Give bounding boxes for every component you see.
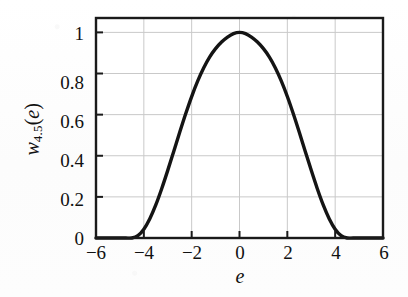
x-tick-label-minus2: −2 [175,243,209,262]
y-tick-label-0.4: 0.4 [46,151,84,170]
x-tick-label-minus6: −6 [79,243,113,262]
x-axis-title: e [200,266,280,286]
x-tick-label-6: 6 [367,243,401,262]
y-tick-label-0.2: 0.2 [46,190,84,209]
y-axis-title: w4.5(e) [22,69,45,189]
x-tick-label-minus4: −4 [127,243,161,262]
y-tick-label-0.8: 0.8 [46,73,84,92]
y-tick-label-1: 1 [46,24,84,43]
y-axis-argument-variable: e [21,110,43,119]
y-tick-label-0.6: 0.6 [46,112,84,131]
figure-container: 0 0.2 0.4 0.6 0.8 1 −6 −4 −2 0 2 4 6 e w… [0,0,408,297]
y-axis-argument: (e) [21,103,43,125]
y-axis-subscript: 4.5 [30,125,45,142]
x-tick-label-4: 4 [319,243,353,262]
y-axis-symbol: w [21,142,43,155]
x-tick-label-2: 2 [271,243,305,262]
x-tick-label-0: 0 [223,243,257,262]
